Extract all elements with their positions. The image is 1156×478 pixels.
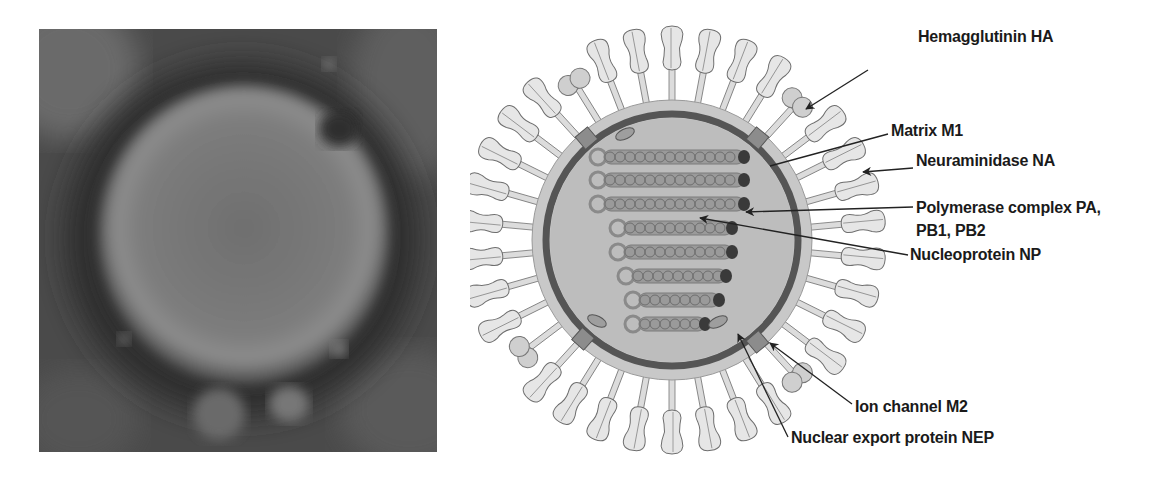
- label-polymerase-line2: PB1, PB2: [916, 221, 986, 240]
- label-matrix-m1: Matrix M1: [891, 121, 963, 140]
- electron-micrograph: [39, 29, 437, 452]
- virus-structure-diagram: Hemagglutinin HA Matrix M1 Neuraminidase…: [470, 0, 1156, 478]
- label-ion-channel-m2: Ion channel M2: [855, 397, 968, 416]
- label-nuclear-export-protein: Nuclear export protein NEP: [791, 428, 994, 447]
- label-hemagglutinin: Hemagglutinin HA: [918, 27, 1053, 46]
- label-polymerase-line1: Polymerase complex PA,: [916, 198, 1101, 217]
- label-nucleoprotein: Nucleoprotein NP: [910, 245, 1041, 264]
- label-neuraminidase: Neuraminidase NA: [916, 151, 1055, 170]
